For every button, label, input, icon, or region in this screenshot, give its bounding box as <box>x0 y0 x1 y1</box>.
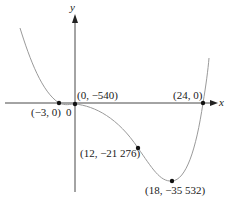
x-axis-arrow-icon <box>210 100 218 106</box>
origin-label: 0 <box>66 107 72 118</box>
point-24-0 <box>201 101 205 105</box>
point-label-18-neg35532: (18, −35 532) <box>145 185 205 196</box>
point-label-12-neg21276: (12, −21 276) <box>80 148 140 159</box>
point-0-neg540 <box>73 102 77 106</box>
x-axis-label: x <box>219 97 224 108</box>
point-label-0-neg540: (0, −540) <box>77 90 118 101</box>
point-label-24-0: (24, 0) <box>173 90 202 101</box>
point-neg3-0 <box>57 101 61 105</box>
y-axis-label: y <box>70 2 75 13</box>
point-label-neg3-0: (−3, 0) <box>31 107 61 118</box>
y-axis-arrow-icon <box>72 14 78 23</box>
point-18-neg35532 <box>170 179 174 183</box>
